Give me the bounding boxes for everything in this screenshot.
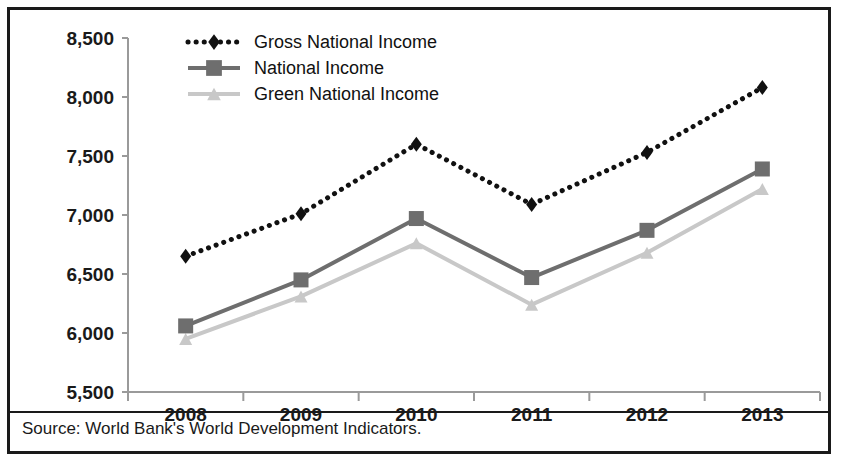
line-chart: 5,5006,0006,5007,0007,5008,0008,50020082… xyxy=(0,0,842,463)
marker-diamond xyxy=(757,80,768,95)
series-green-national-income xyxy=(179,183,769,345)
plot-area: 5,5006,0006,5007,0007,5008,0008,50020082… xyxy=(0,0,842,463)
y-tick-label: 8,000 xyxy=(66,87,114,108)
series-line xyxy=(186,189,763,339)
y-tick-label: 7,500 xyxy=(66,146,114,167)
marker-diamond xyxy=(180,249,191,264)
y-tick-label: 5,500 xyxy=(66,382,114,403)
marker-square xyxy=(294,272,309,287)
marker-square xyxy=(206,60,222,76)
y-tick-label: 6,500 xyxy=(66,264,114,285)
chart-legend: Gross National IncomeNational IncomeGree… xyxy=(188,32,439,104)
marker-square xyxy=(524,270,539,285)
marker-diamond xyxy=(208,34,220,50)
source-divider xyxy=(10,411,828,413)
chart-figure: 5,5006,0006,5007,0007,5008,0008,50020082… xyxy=(0,0,842,463)
source-note: Source: World Bank's World Development I… xyxy=(22,419,822,439)
marker-diamond xyxy=(411,137,422,152)
legend-label-1: Gross National Income xyxy=(254,32,437,52)
y-tick-label: 8,500 xyxy=(66,28,114,49)
marker-diamond xyxy=(526,197,537,212)
marker-diamond xyxy=(642,145,653,160)
marker-square xyxy=(409,211,424,226)
series-line xyxy=(186,169,763,326)
marker-diamond xyxy=(296,206,307,221)
marker-triangle xyxy=(756,183,769,195)
y-tick-label: 7,000 xyxy=(66,205,114,226)
marker-square xyxy=(178,318,193,333)
marker-square xyxy=(640,223,655,238)
marker-square xyxy=(755,161,770,176)
series-line xyxy=(186,88,763,257)
legend-label-2: National Income xyxy=(254,58,384,78)
legend-label-3: Green National Income xyxy=(254,84,439,104)
y-tick-label: 6,000 xyxy=(66,323,114,344)
